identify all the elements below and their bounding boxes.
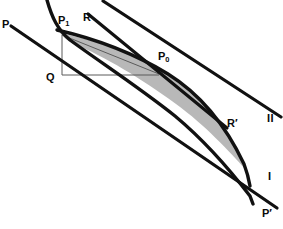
label-p1: P1	[58, 15, 70, 26]
label-q: Q	[46, 72, 55, 83]
label-p1-sub: 1	[65, 19, 69, 28]
tangent-line-r-rprime	[88, 14, 227, 128]
label-r-prime: R′	[227, 118, 238, 129]
label-p: P	[2, 19, 9, 30]
label-r: R	[83, 12, 91, 23]
label-p-prime: P′	[262, 208, 272, 219]
geometry-figure: P P1 R P0 Q R′ II I P′	[0, 0, 283, 229]
label-p0: P0	[158, 51, 170, 62]
figure-canvas	[0, 0, 283, 229]
label-p0-sub: 0	[165, 55, 169, 64]
label-line-two: II	[267, 113, 274, 124]
label-line-one: I	[268, 171, 271, 182]
